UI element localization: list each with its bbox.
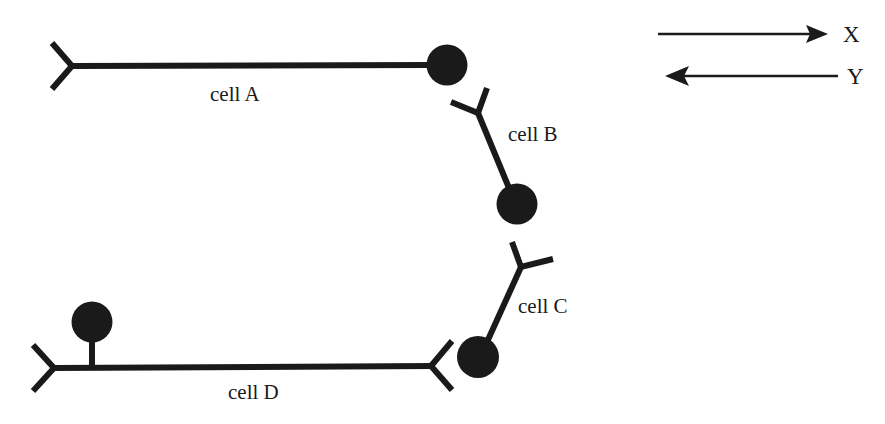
cell-a-soma [427, 45, 468, 86]
cell-d-fork-icon [33, 345, 54, 391]
cell-d-label: cell D [228, 380, 279, 404]
axis-y-label: Y [847, 64, 864, 89]
neuron-diagram-figure: cell A cell B cell C cell D [0, 0, 885, 424]
cell-d-process [54, 366, 434, 368]
axis-legend: X Y [658, 22, 864, 89]
cell-b-group[interactable]: cell B [451, 88, 558, 225]
cell-c-process [487, 267, 521, 342]
cell-b-soma [497, 184, 538, 225]
cell-a-fork-icon [52, 43, 72, 89]
cell-d-terminal-fork-icon [431, 341, 452, 390]
cell-a-group[interactable]: cell A [52, 43, 468, 106]
cell-c-fork-icon [512, 242, 553, 267]
cell-b-process [478, 113, 509, 188]
cell-b-label: cell B [508, 122, 558, 146]
axis-y-group: Y [665, 64, 864, 89]
axis-x-group: X [658, 22, 860, 47]
cell-b-fork-icon [451, 88, 487, 113]
cell-a-label: cell A [210, 82, 260, 106]
cell-c-group[interactable]: cell C [457, 242, 568, 378]
diagram-canvas: cell A cell B cell C cell D [0, 0, 885, 424]
cell-c-soma [457, 336, 499, 378]
axis-x-label: X [843, 22, 860, 47]
cell-c-label: cell C [518, 294, 568, 318]
cell-d-soma [72, 302, 113, 343]
cell-d-group[interactable]: cell D [33, 302, 452, 405]
cell-a-process [72, 65, 432, 66]
